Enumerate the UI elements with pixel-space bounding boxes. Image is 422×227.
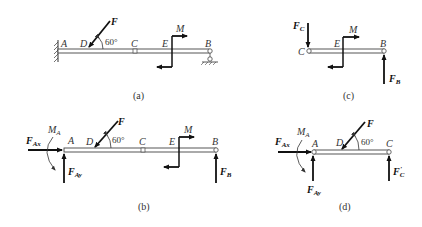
label-A: A xyxy=(60,38,68,49)
angle-arc xyxy=(99,38,103,49)
label-C: C xyxy=(131,38,138,49)
label-E: E xyxy=(168,136,175,147)
label-C: C xyxy=(139,136,146,147)
label-F: F xyxy=(117,116,125,127)
label-F: F xyxy=(366,118,374,129)
label-C: C xyxy=(298,46,305,57)
label-FAy: FAy xyxy=(306,184,322,197)
label-E: E xyxy=(333,38,340,49)
label-A: A xyxy=(311,138,319,149)
label-angle: 60° xyxy=(361,137,374,147)
label-angle: 60° xyxy=(105,37,118,47)
moment-MA-arc xyxy=(297,140,305,172)
label-FB: FB xyxy=(388,73,401,86)
statics-diagram: A D F 60° C E M B (a) FC C E M B FB (c) xyxy=(0,0,422,227)
fixed-support-A xyxy=(54,40,58,62)
caption-d: (d) xyxy=(339,201,351,213)
label-FAy: FAy xyxy=(67,166,83,179)
moment-MA-arc xyxy=(47,137,55,170)
angle-arc xyxy=(107,135,111,148)
label-FCprime: FC′ xyxy=(392,165,405,179)
figure-d: FAx MA A FAy D F 60° C FC′ (d) xyxy=(274,118,405,213)
beam-CB xyxy=(309,49,384,53)
label-E: E xyxy=(161,38,168,49)
hinge-C xyxy=(133,49,137,53)
label-FAx: FAx xyxy=(25,135,41,148)
hinge-C xyxy=(141,148,145,152)
label-D: D xyxy=(335,137,344,148)
label-B: B xyxy=(380,38,386,49)
angle-arc xyxy=(355,136,359,150)
label-angle: 60° xyxy=(112,135,125,145)
label-A: A xyxy=(67,135,75,146)
label-FB: FB xyxy=(219,166,232,179)
label-D: D xyxy=(79,38,88,49)
caption-a: (a) xyxy=(133,90,144,102)
label-B: B xyxy=(205,38,211,49)
label-B: B xyxy=(212,136,218,147)
label-FAx: FAx xyxy=(274,136,290,149)
label-MA: MA xyxy=(47,124,61,137)
caption-c: (c) xyxy=(343,90,354,102)
label-M: M xyxy=(175,23,185,34)
beam-AC xyxy=(314,150,389,154)
label-F: F xyxy=(110,16,118,27)
figure-a: A D F 60° C E M B (a) xyxy=(54,16,218,102)
label-D: D xyxy=(85,136,94,147)
label-MA: MA xyxy=(296,126,310,139)
figure-c: FC C E M B FB (c) xyxy=(292,20,401,102)
figure-b: FAx MA A FAy D F 60° C E M B FB (b) xyxy=(25,116,232,213)
beam-AB xyxy=(64,148,216,152)
label-FC: FC xyxy=(292,20,305,33)
label-M: M xyxy=(348,24,358,35)
label-C: C xyxy=(386,138,393,149)
caption-b: (b) xyxy=(138,201,150,213)
label-M: M xyxy=(183,124,193,135)
